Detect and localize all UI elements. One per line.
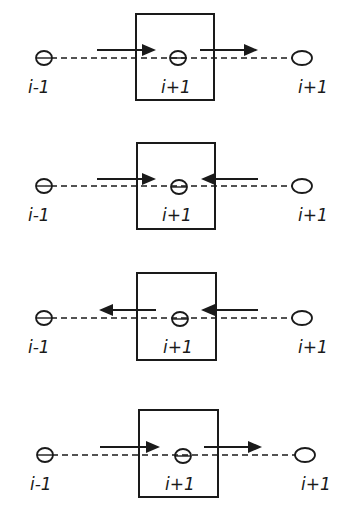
node-label: i+1 <box>298 77 328 97</box>
node-label: i+1 <box>162 205 192 225</box>
node-label: i+1 <box>301 474 331 494</box>
node-label: i-1 <box>28 77 50 97</box>
node-label: i+1 <box>161 77 191 97</box>
node-label: i+1 <box>298 337 328 357</box>
grid-node-circle <box>292 179 312 193</box>
node-label: i+1 <box>165 474 195 494</box>
node-label: i-1 <box>28 205 50 225</box>
grid-node-circle <box>295 448 315 462</box>
grid-node-circle <box>292 51 312 65</box>
node-label: i-1 <box>28 337 50 357</box>
node-label: i+1 <box>163 337 193 357</box>
particle-flux-diagram: i-1i+1i+1i-1i+1i+1i-1i+1i+1i-1i+1i+1 <box>0 0 346 526</box>
grid-node-circle <box>292 311 312 325</box>
node-label: i-1 <box>30 474 52 494</box>
node-label: i+1 <box>298 205 328 225</box>
